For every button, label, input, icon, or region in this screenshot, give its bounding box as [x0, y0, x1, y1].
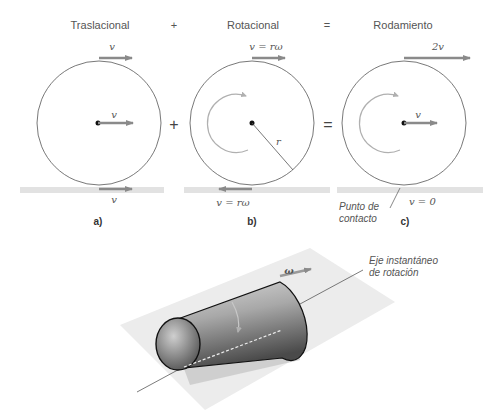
contact-point-label-line1: Punto de: [339, 201, 379, 212]
ground-b: [184, 187, 330, 193]
top-velocity-label: v: [109, 41, 115, 52]
bottom-velocity-label: v = rω: [216, 197, 249, 208]
radius-line: [252, 123, 293, 170]
panel-b: v = rω r v = rω b): [190, 41, 314, 227]
top-velocity-label: 2v: [431, 41, 444, 52]
panel-label-c: c): [401, 216, 410, 227]
plus-operator: +: [169, 116, 178, 133]
panel-c: 2v v v = 0 Punto de contacto c): [339, 41, 470, 227]
rolling-cylinder-illustration: ω Eje instantáneo de rotación: [120, 248, 438, 410]
rotation-arrow-icon: [207, 94, 248, 152]
panel-a: v v v a): [37, 41, 161, 227]
center-velocity-label: v: [415, 109, 421, 120]
contact-velocity-label: v = 0: [409, 196, 436, 207]
axis-label-line1: Eje instantáneo: [369, 255, 438, 266]
radius-label: r: [276, 136, 282, 147]
rotation-arrow-icon: [359, 94, 400, 152]
cylinder-end-cap: [156, 318, 200, 370]
ground-c: [337, 187, 483, 193]
top-velocity-label: v = rω: [249, 41, 282, 52]
equals-operator: =: [323, 116, 332, 133]
header-plus: +: [171, 19, 177, 31]
bottom-velocity-label: v: [111, 194, 117, 205]
panel-label-b: b): [247, 216, 256, 227]
header-equals: =: [324, 19, 330, 31]
omega-label: ω: [284, 265, 294, 276]
header-rolling: Rodamiento: [373, 19, 432, 31]
center-velocity-label: v: [111, 109, 117, 120]
header-rotational: Rotacional: [227, 19, 279, 31]
contact-point-label-line2: contacto: [339, 213, 377, 224]
ground-a: [20, 187, 164, 193]
panel-label-a: a): [94, 216, 103, 227]
axis-label-line2: de rotación: [369, 267, 419, 278]
header-translational: Traslacional: [71, 19, 130, 31]
